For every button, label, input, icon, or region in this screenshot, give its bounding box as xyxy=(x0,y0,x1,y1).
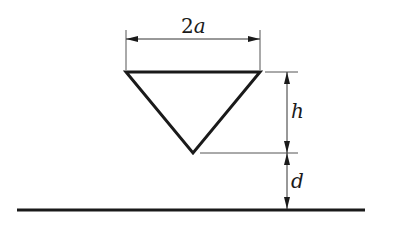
inverted-triangle xyxy=(126,72,260,153)
height-label: h xyxy=(291,101,304,121)
gap-label: d xyxy=(291,171,304,191)
diagram-canvas: 2a h d xyxy=(0,0,394,231)
width-label-variable: a xyxy=(194,14,206,38)
width-label-number: 2 xyxy=(181,14,194,38)
width-label: 2a xyxy=(181,16,206,36)
